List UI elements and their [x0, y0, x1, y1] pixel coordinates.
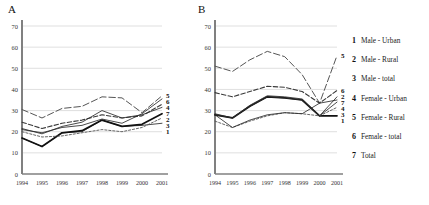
legend-label: Male - Urban	[361, 36, 400, 45]
series-line-3	[22, 118, 162, 137]
series-endpoint-label-1: 1	[341, 117, 345, 125]
x-axis-tick-label: 1995	[36, 180, 48, 186]
legend-label: Female - Rural	[361, 113, 405, 122]
y-axis-tick-label: 60	[205, 44, 211, 51]
legend-item: 1 Male - Urban	[352, 36, 429, 55]
x-axis-tick-label: 1999	[296, 180, 308, 186]
legend-number: 7	[352, 151, 361, 160]
series-line-7	[215, 100, 337, 127]
y-axis-tick-label: 20	[12, 128, 18, 135]
x-axis-tick-label: 1998	[279, 180, 291, 186]
y-axis-tick-label: 30	[12, 107, 18, 114]
legend-label: Male - Rural	[361, 55, 398, 64]
legend-label: Female - total	[361, 132, 402, 141]
x-axis-tick-label: 2001	[156, 180, 168, 186]
legend-label: Female - Urban	[361, 94, 407, 103]
y-axis-tick-label: 50	[12, 65, 18, 72]
y-axis-tick-label: 70	[205, 23, 211, 30]
chart-panel-b: B 01020304050607019941995199619971998199…	[190, 0, 365, 205]
legend-number: 3	[352, 74, 361, 83]
y-axis-tick-label: 50	[205, 65, 211, 72]
x-axis-tick-label: 2000	[136, 180, 148, 186]
legend-number: 4	[352, 94, 361, 103]
x-axis-tick-label: 1997	[76, 180, 88, 186]
series-line-7	[22, 107, 162, 133]
legend-label: Male - total	[361, 74, 395, 83]
chart-panel-a: A 01020304050607019941995199619971998199…	[0, 0, 200, 205]
y-axis-tick-label: 70	[12, 23, 18, 30]
x-axis-tick-label: 1999	[116, 180, 128, 186]
legend-label: Total	[361, 151, 376, 160]
panel-b-plot: 0102030405060701994199519961997199819992…	[190, 0, 365, 205]
legend-item: 2 Male - Rural	[352, 55, 429, 74]
x-axis-tick-label: 1998	[96, 180, 108, 186]
legend: 1 Male - Urban 2 Male - Rural 3 Male - t…	[352, 36, 429, 186]
legend-item: 7 Total	[352, 151, 429, 170]
legend-item: 3 Male - total	[352, 74, 429, 93]
y-axis-tick-label: 0	[208, 171, 211, 178]
series-line-5	[215, 51, 337, 103]
panel-a-plot: 0102030405060701994199519961997199819992…	[0, 0, 200, 205]
x-axis-tick-label: 1996	[56, 180, 68, 186]
legend-number: 2	[352, 55, 361, 64]
x-axis-tick-label: 1997	[261, 180, 273, 186]
x-axis-tick-label: 1996	[244, 180, 256, 186]
figure-container: A 01020304050607019941995199619971998199…	[0, 0, 429, 205]
legend-item: 5 Female - Rural	[352, 113, 429, 132]
legend-number: 1	[352, 36, 361, 45]
series-endpoint-label-5: 5	[341, 52, 345, 60]
x-axis-tick-label: 1994	[209, 180, 221, 186]
x-axis-tick-label: 1995	[226, 180, 238, 186]
y-axis-tick-label: 40	[205, 86, 211, 93]
y-axis-tick-label: 0	[15, 171, 18, 178]
y-axis-tick-label: 60	[12, 44, 18, 51]
series-line-4	[215, 97, 337, 118]
y-axis-tick-label: 10	[205, 149, 211, 156]
y-axis-tick-label: 20	[205, 128, 211, 135]
legend-number: 6	[352, 132, 361, 141]
legend-item: 6 Female - total	[352, 132, 429, 151]
series-line-6	[215, 86, 337, 103]
y-axis-tick-label: 40	[12, 86, 18, 93]
x-axis-tick-label: 2001	[331, 180, 343, 186]
y-axis-tick-label: 10	[12, 149, 18, 156]
y-axis-tick-label: 30	[205, 107, 211, 114]
x-axis-tick-label: 1994	[16, 180, 28, 186]
legend-item: 4 Female - Urban	[352, 94, 429, 113]
legend-number: 5	[352, 113, 361, 122]
series-endpoint-label-1: 1	[166, 128, 170, 136]
series-line-2	[22, 114, 162, 147]
x-axis-tick-label: 2000	[313, 180, 325, 186]
